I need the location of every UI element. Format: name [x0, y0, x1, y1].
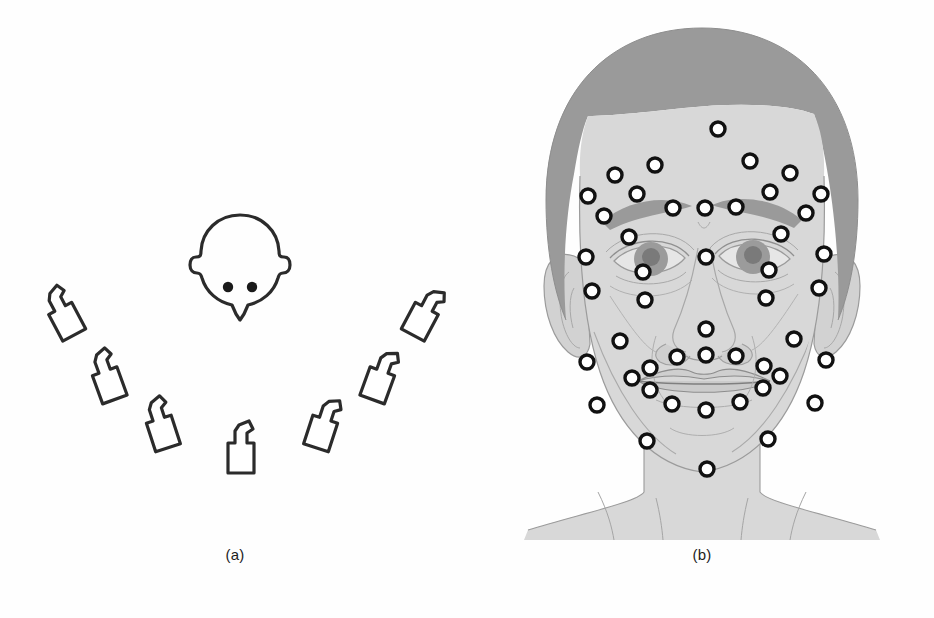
- fiducial-marker: [756, 381, 770, 395]
- fiducial-marker: [761, 432, 775, 446]
- fiducial-marker: [585, 284, 599, 298]
- fiducial-marker: [757, 359, 771, 373]
- fiducial-marker: [814, 187, 828, 201]
- fiducial-marker: [759, 291, 773, 305]
- fiducial-marker: [699, 403, 713, 417]
- fiducial-marker: [636, 265, 650, 279]
- fiducial-marker: [643, 361, 657, 375]
- fiducial-marker: [774, 227, 788, 241]
- fiducial-marker: [733, 395, 747, 409]
- fiducial-marker: [590, 398, 604, 412]
- fiducial-marker: [783, 166, 797, 180]
- fiducial-marker: [699, 250, 713, 264]
- fiducial-marker: [773, 369, 787, 383]
- fiducial-marker: [581, 189, 595, 203]
- fiducial-marker: [643, 383, 657, 397]
- head-eye-dot-1: [223, 282, 233, 292]
- fiducial-marker: [729, 200, 743, 214]
- camera-far-right[interactable]: [401, 283, 448, 341]
- fiducial-marker: [763, 185, 777, 199]
- fiducial-marker: [613, 334, 627, 348]
- fiducial-marker: [580, 355, 594, 369]
- face-illustration: [470, 0, 934, 540]
- fiducial-marker: [622, 230, 636, 244]
- camera-mid-right[interactable]: [360, 346, 402, 404]
- head-outline: [190, 215, 290, 320]
- fiducial-marker: [808, 396, 822, 410]
- fiducial-marker: [699, 322, 713, 336]
- fiducial-marker: [666, 201, 680, 215]
- camera-inner-right[interactable]: [304, 394, 345, 451]
- fiducial-marker: [670, 350, 684, 364]
- fiducial-marker: [608, 168, 622, 182]
- fiducial-marker: [762, 263, 776, 277]
- head-eye-dot-2: [247, 282, 257, 292]
- fiducial-marker: [698, 201, 712, 215]
- camera-inner-left[interactable]: [140, 394, 181, 451]
- fiducial-marker: [579, 250, 593, 264]
- fiducial-marker: [625, 371, 639, 385]
- fiducial-marker: [700, 462, 714, 476]
- figure-root: (a): [0, 0, 934, 618]
- camera-mid-left[interactable]: [85, 346, 127, 404]
- fiducial-marker: [787, 332, 801, 346]
- fiducial-marker: [729, 349, 743, 363]
- fiducial-marker: [711, 122, 725, 136]
- fiducial-marker: [743, 154, 757, 168]
- fiducial-marker: [812, 281, 826, 295]
- camera-center[interactable]: [228, 421, 254, 473]
- head-top-view: [190, 215, 290, 320]
- fiducial-marker: [799, 206, 813, 220]
- fiducial-marker: [817, 247, 831, 261]
- fiducial-marker: [648, 158, 662, 172]
- panel-b-caption: (b): [470, 546, 934, 563]
- fiducial-marker: [699, 348, 713, 362]
- fiducial-marker: [597, 209, 611, 223]
- fiducial-marker: [630, 187, 644, 201]
- panel-a-caption: (a): [0, 546, 470, 563]
- camera-rig-diagram: [0, 0, 470, 540]
- panel-a-camera-rig: (a): [0, 0, 470, 618]
- fiducial-marker: [638, 293, 652, 307]
- panel-b-marked-face: (b): [470, 0, 934, 618]
- fiducial-marker: [640, 434, 654, 448]
- fiducial-marker: [665, 397, 679, 411]
- camera-far-left[interactable]: [38, 283, 85, 341]
- fiducial-marker: [819, 353, 833, 367]
